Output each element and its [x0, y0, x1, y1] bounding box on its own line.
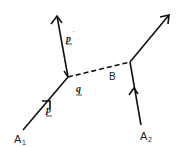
arrow-icon-a2 — [129, 88, 138, 95]
label-p-prime: p — [65, 33, 71, 44]
label-p: p — [45, 104, 51, 115]
arrow-icon-p-prime — [51, 16, 62, 24]
label-a1: A — [14, 133, 22, 145]
label-b: B — [109, 71, 116, 82]
label-a2-sub: 2 — [148, 136, 152, 143]
label-a2: A — [140, 130, 148, 142]
feynman-diagram: p ′ q p B A 1 A 2 — [0, 0, 179, 147]
outgoing-line-p-prime — [57, 16, 68, 77]
label-p-prime-mark: ′ — [73, 30, 75, 36]
incoming-line-a2 — [130, 62, 141, 125]
outgoing-line-right — [130, 15, 169, 62]
label-a1-sub: 1 — [22, 139, 26, 146]
label-q: q — [76, 83, 81, 94]
exchange-line-q — [68, 62, 130, 77]
